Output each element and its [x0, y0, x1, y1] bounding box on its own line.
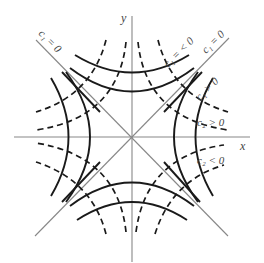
x-axis-label: x: [239, 139, 246, 153]
hyperbola-level-curves-diagram: y x c₁ = 0 c₁ = < 0 c₁ = 0 c₁ > 0 c₂ > 0…: [0, 0, 264, 263]
label-c2-pos: c₂ > 0: [197, 116, 225, 128]
label-c1-pos: c₁ > 0: [193, 74, 221, 102]
diagram-canvas: y x c₁ = 0 c₁ = < 0 c₁ = 0 c₁ > 0 c₂ > 0…: [0, 0, 264, 263]
label-c1-zero-left: c₁ = 0: [37, 27, 65, 55]
label-c1-neg: c₁ = < 0: [161, 34, 196, 69]
axes: [14, 16, 250, 262]
label-c2-neg: c₂ < 0: [197, 154, 225, 166]
dashed-curve-bottom-left-inner: [36, 162, 106, 234]
dashed-curve-top-right-inner: [158, 40, 228, 112]
y-axis-label: y: [120, 11, 127, 25]
label-c1-zero-right: c₁ = 0: [199, 27, 227, 55]
solid-curve-lr-a: [164, 162, 200, 202]
dashed-curve-bottom-right-inner: [155, 165, 224, 234]
